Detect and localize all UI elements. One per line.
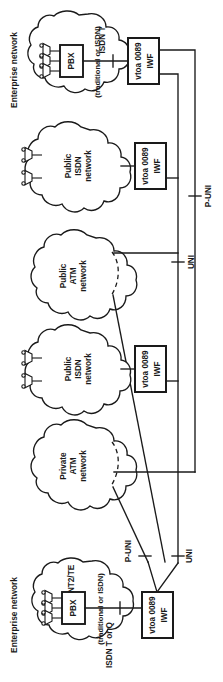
diagram-canvas: Enterprise network Enterprise network PB… xyxy=(0,0,223,682)
cloud-label-line2: ISDN xyxy=(74,359,83,379)
link-p-uni-to-iwf4 xyxy=(148,562,157,592)
link-iwf1-to-buses xyxy=(159,50,195,563)
iwf-box-isdn-lower: vtoa 0089 IWF xyxy=(135,346,166,392)
enterprise-cloud-bottom: PBX NT2/TE (traditional or ISDN) xyxy=(32,558,134,645)
private-atm-cloud: Private ATM network xyxy=(31,420,137,510)
iwf-box-top: vtoa 0089 IWF xyxy=(128,38,159,84)
interface-label-isdn-t-or-q: ISDN T or Q xyxy=(105,621,114,668)
cloud-label-line1: Private xyxy=(59,452,68,480)
public-atm-cloud: Public ATM network xyxy=(31,230,137,320)
iwf-line1-isdn-upper: vtoa 0089 xyxy=(141,147,150,185)
cloud-label-line3: network xyxy=(79,450,88,482)
network-diagram-figure: Enterprise network Enterprise network PB… xyxy=(0,0,223,682)
iwf-line2-top: IWF xyxy=(146,53,155,68)
iwf-line1-top: vtoa 0089 xyxy=(134,42,143,80)
iwf-line1-bottom: vtoa 0089 xyxy=(148,596,157,634)
cloud-label-line3: network xyxy=(84,150,93,182)
link-uni-bus-to-iwf4 xyxy=(157,563,178,592)
public-isdn-cloud-lower: Public ISDN network xyxy=(22,325,131,415)
iwf-line2-isdn-lower: IWF xyxy=(153,361,162,376)
pbx-label-top: PBX xyxy=(67,52,76,69)
pbx-suffix-bottom: NT2/TE xyxy=(67,564,76,593)
cloud-label-line1: Public xyxy=(59,263,68,288)
iwf-line1-isdn-lower: vtoa 0089 xyxy=(141,350,150,388)
iwf-line2-isdn-upper: IWF xyxy=(153,158,162,173)
enterprise-note-bottom: (traditional or ISDN) xyxy=(96,573,105,645)
interface-tick-uni-bottom: UNI xyxy=(172,549,194,563)
cloud-label-line1: Public xyxy=(64,356,73,381)
interface-bus-p-uni: P-UNI xyxy=(189,185,213,207)
interface-bus-uni: UNI xyxy=(172,255,196,269)
enterprise-label-bottom: Enterprise network xyxy=(9,577,19,653)
enterprise-cloud-top: PBX (traditional or ISDN) xyxy=(28,11,130,98)
pbx-label-bottom: PBX xyxy=(69,599,78,616)
iwf-box-isdn-upper: vtoa 0089 IWF xyxy=(135,143,166,189)
cloud-label-line3: network xyxy=(84,353,93,385)
cloud-label-line2: ATM xyxy=(69,457,78,474)
link-public-atm-diagonal xyxy=(113,295,165,562)
interface-label-uni-bottom: UNI xyxy=(185,549,194,563)
interface-label-uni-right: UNI xyxy=(187,255,196,269)
iwf-line2-bottom: IWF xyxy=(160,607,169,622)
iwf-box-bottom: vtoa 0089 IWF xyxy=(142,592,173,638)
enterprise-network-label-bottom: Enterprise network xyxy=(9,577,19,653)
cloud-label-line2: ATM xyxy=(69,267,78,284)
interface-label-p-uni-right: P-UNI xyxy=(204,185,213,207)
cloud-label-line2: ISDN xyxy=(74,156,83,176)
enterprise-network-label-top: Enterprise network xyxy=(9,32,19,108)
interface-label-p-uni-bottom: P-UNI xyxy=(124,540,133,562)
cloud-label-line3: network xyxy=(79,260,88,292)
interface-label-isdn-t: ISDN T xyxy=(98,27,107,54)
enterprise-label-top: Enterprise network xyxy=(9,32,19,108)
cloud-label-line1: Public xyxy=(64,153,73,178)
public-isdn-cloud-upper: Public ISDN network xyxy=(22,122,131,212)
